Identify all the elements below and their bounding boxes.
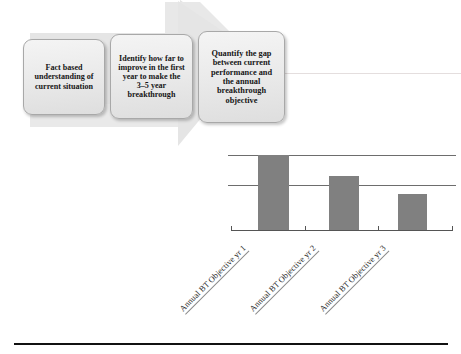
bar-chart bbox=[228, 140, 456, 240]
chart-category-label-yr1: Annual BT Objective yr 1 bbox=[178, 244, 249, 315]
bottom-divider bbox=[14, 343, 448, 345]
process-step-1-box[interactable]: Fact based understanding of current situ… bbox=[23, 39, 105, 115]
process-step-3-box[interactable]: Quantify the gap between current perform… bbox=[198, 31, 285, 123]
background-hairline bbox=[285, 73, 461, 74]
chart-tick-2 bbox=[378, 226, 379, 231]
process-step-3-label: Quantify the gap between current perform… bbox=[203, 49, 280, 105]
slide-canvas: Fact based understanding of current situ… bbox=[0, 0, 461, 354]
chart-category-label-yr3: Annual BT Objective yr 3 bbox=[318, 244, 389, 315]
chart-bar-yr3[interactable] bbox=[398, 194, 427, 230]
chart-tick-1 bbox=[305, 226, 306, 231]
chart-x-axis bbox=[231, 230, 453, 231]
chart-bar-yr1[interactable] bbox=[258, 155, 289, 230]
process-step-2-label: Identify how far to improve in the first… bbox=[115, 54, 188, 99]
process-step-2-box[interactable]: Identify how far to improve in the first… bbox=[110, 34, 193, 119]
chart-category-label-yr2: Annual BT Objective yr 2 bbox=[248, 244, 319, 315]
chart-tick-3 bbox=[452, 226, 453, 231]
chart-tick-0 bbox=[231, 226, 232, 231]
chart-bar-yr2[interactable] bbox=[329, 176, 359, 230]
process-step-1-label: Fact based understanding of current situ… bbox=[28, 63, 100, 90]
